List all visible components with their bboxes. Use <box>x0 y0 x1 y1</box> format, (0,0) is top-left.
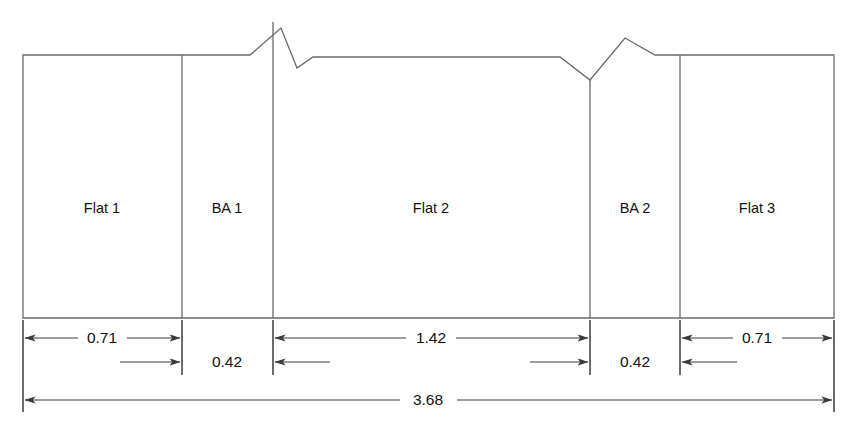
dimension-0-42-left: 0.42 <box>120 353 330 370</box>
dimension-value-flat-1: 0.71 <box>87 329 117 346</box>
segment-label-flat-1: Flat 1 <box>84 200 120 216</box>
dimension-value-ba-1: 0.42 <box>212 353 242 370</box>
flat-pattern-diagram: Flat 1 BA 1 Flat 2 BA 2 Flat 3 0.71 1.42 <box>0 0 861 434</box>
segment-label-ba-1: BA 1 <box>212 200 243 216</box>
part-outline-group <box>23 28 834 318</box>
dimension-value-ba-2: 0.42 <box>620 353 650 370</box>
dimension-0-71-right: 0.71 <box>682 329 832 346</box>
part-outline <box>23 28 834 318</box>
dimension-0-42-right: 0.42 <box>530 353 737 370</box>
dimension-1-42-center: 1.42 <box>275 329 588 346</box>
dimension-value-flat-2: 1.42 <box>416 329 446 346</box>
dimension-0-71-left: 0.71 <box>25 329 180 346</box>
segment-label-flat-2: Flat 2 <box>413 200 449 216</box>
diagram-canvas: Flat 1 BA 1 Flat 2 BA 2 Flat 3 0.71 1.42 <box>0 0 861 434</box>
segment-label-flat-3: Flat 3 <box>739 200 775 216</box>
dimension-value-overall: 3.68 <box>413 391 443 408</box>
dimension-value-flat-3: 0.71 <box>742 329 772 346</box>
segment-label-ba-2: BA 2 <box>620 200 651 216</box>
dimension-overall-3-68: 3.68 <box>25 391 832 408</box>
